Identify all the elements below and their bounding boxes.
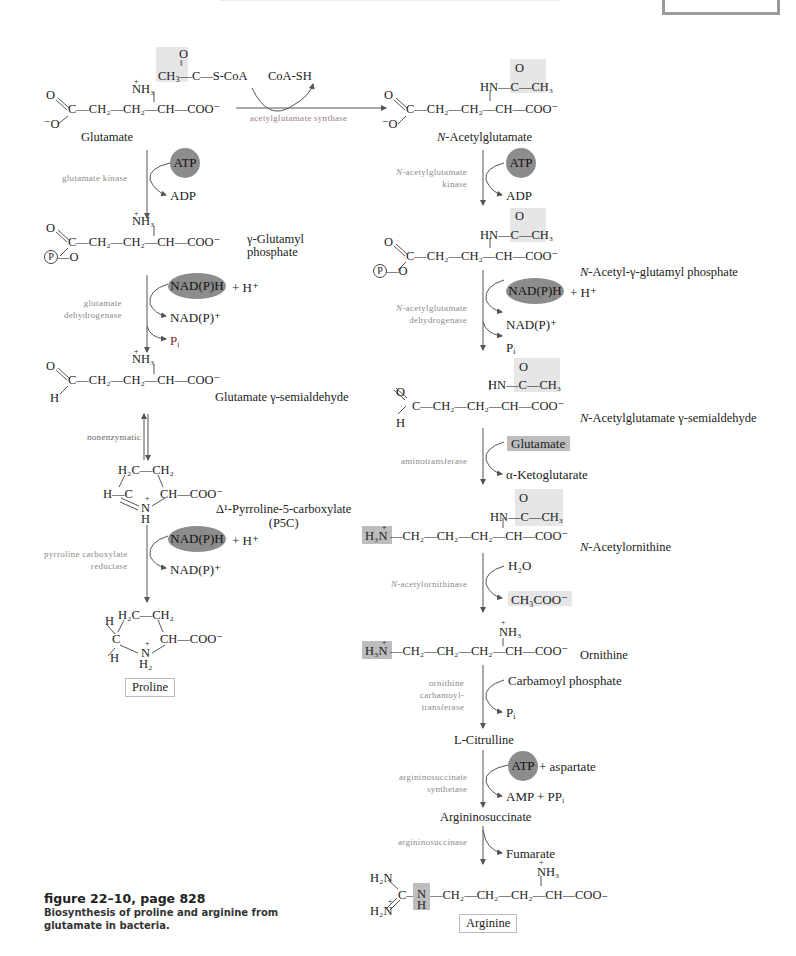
proline-h-bottom: H <box>110 652 119 665</box>
h-plus-2: + H⁺ <box>232 534 259 547</box>
adp-product-2: ADP <box>506 189 532 202</box>
nadp-plus-product-3: NAD(P)⁺ <box>506 318 557 331</box>
nagp-acetyl: HN—C—CH₃ <box>480 229 553 242</box>
semialdehyde-h: H <box>50 392 59 405</box>
atp-cofactor-2: ATP <box>506 148 536 178</box>
semialdehyde-name: Glutamate γ-semialdehyde <box>215 390 349 405</box>
nagp-name: N-Acetyl-γ-glutamyl phosphate <box>580 265 738 280</box>
glutamyl-phosphate-top-o: O <box>46 222 55 235</box>
enzyme-glutamate-dehydrogenase: glutamate dehydrogenase <box>64 297 122 321</box>
nadph-cofactor-2: NAD(P)H <box>168 526 226 552</box>
nags-chain: C—CH₂—CH₂—CH—COO⁻ <box>412 400 564 413</box>
arg-nh3: NH₃ <box>537 866 559 879</box>
nags-top-o: O <box>396 386 405 399</box>
nag-chain: C—CH₂—CH₂—CH—COO⁻ <box>406 103 558 116</box>
nagp-o-link: —O <box>386 265 408 278</box>
caption-title: figure 22–10, page 828 <box>44 891 284 906</box>
nao-name: N-Acetylornithine <box>580 540 671 555</box>
enzyme-aminotransferase: aminotransferase <box>401 455 467 467</box>
nadp-plus-product-2: NAD(P)⁺ <box>170 563 221 576</box>
h-plus: + H⁺ <box>232 281 259 294</box>
glutamate-top-o: O <box>46 89 55 102</box>
phosphoryl-group-circle: P <box>44 250 58 264</box>
glutamate-chain: C—CH₂—CH₂—CH—COO⁻ <box>68 103 220 116</box>
water-cofactor: H₂O <box>508 559 531 572</box>
glutamyl-phosphate-chain: C—CH₂—CH₂—CH—COO⁻ <box>68 236 220 249</box>
enzyme-pyrroline-carboxylate-reductase: pyrroline carboxylate reductase <box>44 548 128 572</box>
nags-acetyl: HN—C—CH₃ <box>488 379 561 392</box>
proline-nh2: H₂ <box>139 658 152 671</box>
nadph-cofactor-3: NAD(P)H <box>506 278 564 304</box>
aspartate-cofactor: + aspartate <box>539 760 596 773</box>
nag-bottom-o: ⁻O <box>382 118 398 131</box>
glutamate-name: Glutamate <box>81 130 133 145</box>
carbamoyl-phosphate-cofactor: Carbamoyl phosphate <box>508 674 622 687</box>
glutamyl-phosphate-o-link: —O <box>57 251 79 264</box>
coa-sh-product: CoA-SH <box>268 70 312 83</box>
ornithine-name: Ornithine <box>580 648 628 663</box>
enzyme-acetylglutamate-synthase: acetylglutamate synthase <box>250 112 347 124</box>
alpha-ketoglutarate-product: α-Ketoglutarate <box>506 468 588 481</box>
pi-product-3: Pi <box>506 706 515 721</box>
nagp-top-o: O <box>384 236 393 249</box>
adp-product: ADP <box>170 189 196 202</box>
pi-product-2: Pi <box>506 341 515 356</box>
p5c-right: CH—COO⁻ <box>160 488 223 501</box>
orn-chain: —CH₂—CH₂—CH₂—CH—COO⁻ <box>390 645 568 658</box>
glutamate-nh3: NH₃ <box>132 83 154 96</box>
atp-cofactor-3: ATP <box>508 751 538 781</box>
proline-label: Proline <box>125 678 175 697</box>
arg-h2n-bottom: H₂N <box>370 905 392 918</box>
h-plus-3: + H⁺ <box>570 286 597 299</box>
arg-nh: H <box>417 899 426 912</box>
acetyl-coa-double-bond: ‖ <box>180 59 183 68</box>
enzyme-argininosuccinate-synthetase: argininosuccinate synthetase <box>399 771 467 795</box>
acetate-product: CH₃COO⁻ <box>511 593 568 606</box>
orn-h3n: H₃N <box>365 645 387 658</box>
nadp-plus-product: NAD(P)⁺ <box>170 311 221 324</box>
nagp-chain: C—CH₂—CH₂—CH—COO⁻ <box>406 250 558 263</box>
arg-h2n-top: H₂N <box>370 872 392 885</box>
semialdehyde-top-o: O <box>46 360 55 373</box>
glutamyl-phosphate-nh3: NH₃ <box>132 215 154 228</box>
citrulline-name: L-Citrulline <box>454 733 514 748</box>
enzyme-argininosuccinase: argininosuccinase <box>398 836 467 848</box>
semialdehyde-nh3: NH₃ <box>132 353 154 366</box>
p5c-name: Δ¹-Pyrroline-5-carboxylate (P5C) <box>216 503 351 531</box>
pi-product: Pi <box>170 334 179 349</box>
atp-cofactor: ATP <box>170 148 200 178</box>
semialdehyde-chain: C—CH₂—CH₂—CH—COO⁻ <box>68 374 220 387</box>
arg-chain: —CH₂—CH₂—CH₂—CH—COO₋ <box>430 889 608 902</box>
enzyme-n-acetylglutamate-dehydrogenase: N-acetylglutamate dehydrogenase <box>396 302 467 326</box>
nag-acetyl-o: O <box>515 62 524 75</box>
glutamyl-phosphate-name-2: phosphate <box>247 245 298 260</box>
p5c-nh: H <box>141 513 150 526</box>
proline-h-top: H <box>105 615 114 628</box>
enzyme-glutamate-kinase: glutamate kinase <box>62 172 128 184</box>
p5c-left: H—C <box>103 488 133 501</box>
nao-chain: —CH₂—CH₂—CH₂—CH—COO⁻ <box>390 530 568 543</box>
figure-caption: figure 22–10, page 828 Biosynthesis of p… <box>44 891 284 932</box>
nags-acetyl-o: O <box>519 361 528 374</box>
nag-name: N-Acetylglutamate <box>437 130 532 145</box>
proline-right: CH—COO⁻ <box>160 633 223 646</box>
proline-ring-top: H₂C—CH₂ <box>118 609 174 622</box>
nags-h: H <box>396 417 405 430</box>
argininosuccinate-name: Argininosuccinate <box>440 810 531 825</box>
nag-acetyl: HN—C—CH₃ <box>480 81 553 94</box>
nagp-acetyl-o: O <box>515 210 524 223</box>
proline-c: C <box>112 633 120 646</box>
glutamate-cofactor-label: Glutamate <box>511 437 565 450</box>
acetyl-coa-formula: CH3—C—S-CoA <box>158 70 247 84</box>
glutamate-bottom-o: ⁻O <box>44 118 60 131</box>
arginine-label: Arginine <box>459 914 517 933</box>
amp-ppi-product: AMP + PPi <box>506 790 564 805</box>
orn-nh3: NH₃ <box>499 626 521 639</box>
enzyme-n-acetylglutamate-kinase: N-acetylglutamate kinase <box>396 166 467 190</box>
enzyme-n-acetylornithinase: N-acetylornithinase <box>391 578 467 590</box>
nao-h3n: H₃N <box>365 530 387 543</box>
p5c-ring-top: H₂C—CH₂ <box>118 464 174 477</box>
nadph-cofactor: NAD(P)H <box>168 273 226 299</box>
enzyme-ornithine-carbamoyltransferase: ornithine carbamoyl- transferase <box>420 677 464 713</box>
caption-text: Biosynthesis of proline and arginine fro… <box>44 906 284 932</box>
